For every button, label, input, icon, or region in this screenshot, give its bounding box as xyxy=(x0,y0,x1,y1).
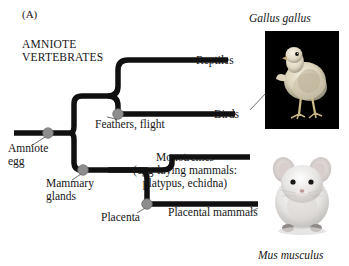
node-mammary-glands xyxy=(78,165,89,176)
character-label-feathers-flight: Feathers, flight xyxy=(95,118,165,131)
character-label-mammary-glands: Mammary glands xyxy=(46,177,94,203)
monotremes-line1: Monotremes xyxy=(120,151,250,164)
node-placenta xyxy=(142,199,153,210)
taxon-label-birds: Birds xyxy=(214,108,239,121)
figure-title: AMNIOTE VERTEBRATES xyxy=(22,38,103,64)
figure-title-line2: VERTEBRATES xyxy=(22,51,103,64)
character-label-amniote-egg: Amniote egg xyxy=(8,142,48,168)
branch-to-mammal-clade xyxy=(70,133,108,170)
taxon-label-monotremes: Monotremes (egg-laying mammals: platypus… xyxy=(120,151,250,190)
taxon-label-reptiles: Reptiles xyxy=(196,54,234,67)
chick-photo xyxy=(265,31,339,129)
figure-panel-a: (A) AMNIOTE VERTEBRATES Reptiles Birds M… xyxy=(0,0,349,266)
monotremes-line3: platypus, echidna) xyxy=(120,177,250,190)
taxon-label-placental-mammals: Placental mammals xyxy=(168,206,258,219)
panel-letter: (A) xyxy=(22,8,37,20)
mammary-line1: Mammary xyxy=(46,177,94,190)
photo-caption-gallus-gallus: Gallus gallus xyxy=(249,12,311,25)
amniote-egg-line2: egg xyxy=(8,155,48,168)
character-label-placenta: Placenta xyxy=(101,211,140,224)
chick-illustration xyxy=(265,31,339,129)
photo-caption-mus-musculus: Mus musculus xyxy=(258,249,324,262)
mouse-photo xyxy=(258,140,346,246)
mouse-illustration xyxy=(258,140,346,246)
node-amniote-egg xyxy=(43,128,54,139)
figure-title-line1: AMNIOTE xyxy=(22,38,103,51)
mammary-line2: glands xyxy=(46,190,94,203)
monotremes-line2: (egg-laying mammals: xyxy=(120,164,250,177)
amniote-egg-line1: Amniote xyxy=(8,142,48,155)
